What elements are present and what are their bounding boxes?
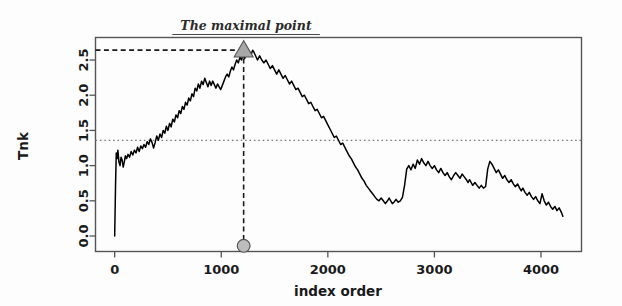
data-series-tnk xyxy=(115,50,563,236)
x-tick-label: 4000 xyxy=(523,262,559,277)
y-tick-label: 2.0 xyxy=(76,84,91,107)
chart-title: The maximal point xyxy=(180,18,312,33)
x-tick-label: 2000 xyxy=(310,262,346,277)
line-chart: 0.00.51.01.52.02.5 01000200030004000 The… xyxy=(0,0,622,306)
chart-figure: 0.00.51.01.52.02.5 01000200030004000 The… xyxy=(0,0,622,306)
x-tick-label: 1000 xyxy=(203,262,239,277)
y-tick-label: 1.5 xyxy=(76,119,91,142)
maximal-point-circle-marker xyxy=(237,239,250,252)
y-tick-label: 2.5 xyxy=(76,49,91,72)
x-axis-ticks: 01000200030004000 xyxy=(110,252,559,277)
y-tick-label: 1.0 xyxy=(76,154,91,177)
maximal-point-triangle-marker xyxy=(234,41,253,57)
y-tick-label: 0.0 xyxy=(76,224,91,247)
y-axis-ticks: 0.00.51.01.52.02.5 xyxy=(76,49,95,248)
y-tick-label: 0.5 xyxy=(76,189,91,212)
x-tick-label: 0 xyxy=(110,262,119,277)
x-axis-label: index order xyxy=(294,283,382,299)
plot-panel-border xyxy=(96,38,582,252)
x-tick-label: 3000 xyxy=(416,262,452,277)
y-axis-label: Tnk xyxy=(15,131,31,160)
